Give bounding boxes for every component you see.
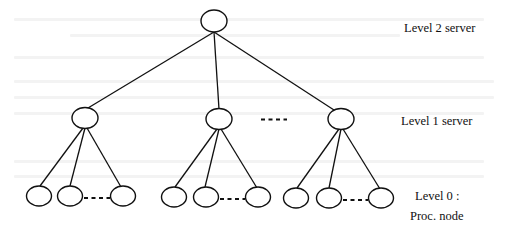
- proc-node: [284, 188, 309, 208]
- proc-node: [246, 187, 271, 207]
- level2-server-node: [201, 10, 227, 32]
- level1-server-node: [72, 108, 98, 129]
- level0-label: Level 0 :: [415, 189, 459, 203]
- level1-server-node: [206, 109, 232, 130]
- proc-node: [111, 186, 136, 206]
- edges-level2-to-level1: [88, 32, 334, 110]
- proc-node: [27, 186, 52, 206]
- proc-node-label: Proc. node: [410, 209, 463, 223]
- level1-label: Level 1 server: [401, 114, 473, 128]
- proc-node: [58, 186, 83, 206]
- level2-label: Level 2 server: [404, 21, 476, 35]
- proc-node: [317, 188, 342, 208]
- proc-node: [162, 187, 187, 207]
- proc-node: [194, 187, 219, 207]
- proc-node: [369, 188, 394, 208]
- level1-server-node: [328, 109, 354, 130]
- edges-level1-to-level0: [40, 128, 380, 189]
